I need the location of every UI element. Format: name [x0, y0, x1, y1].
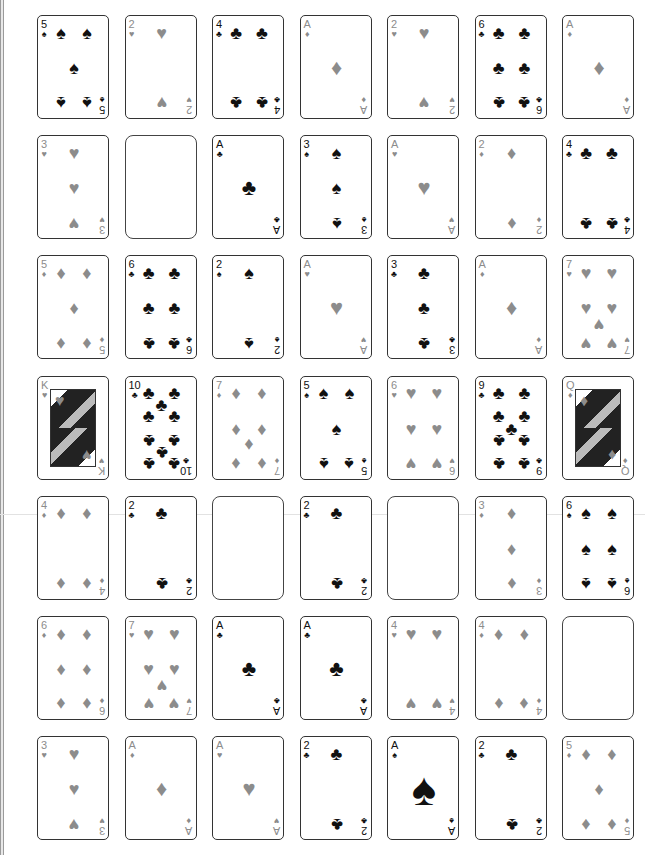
- card-a-of-hearts[interactable]: A♥A♥♥: [300, 255, 372, 359]
- diamonds-icon: ♦: [69, 299, 78, 317]
- card-a-of-hearts[interactable]: A♥A♥♥: [387, 135, 459, 239]
- card-corner-index: 5♠: [361, 456, 367, 476]
- card-7-of-hearts[interactable]: 7♥7♥♥♥♥♥♥♥♥: [562, 255, 634, 359]
- card-rank: 2: [186, 585, 192, 596]
- spades-icon: ♠: [100, 95, 105, 104]
- clubs-icon: ♣: [329, 658, 343, 680]
- card-a-of-diamonds[interactable]: A♦A♦♦: [475, 255, 547, 359]
- card-2-of-hearts[interactable]: 2♥2♥♥♥: [125, 15, 197, 119]
- card-2-of-clubs[interactable]: 2♣2♣♣♣: [300, 736, 372, 840]
- card-corner-index: 3♦: [536, 576, 542, 596]
- card-3-of-hearts[interactable]: 3♥3♥♥♥♥: [37, 736, 109, 840]
- hearts-icon: ♥: [187, 95, 192, 104]
- card-2-of-hearts[interactable]: 2♥2♥♥♥: [387, 15, 459, 119]
- card-rank: 5: [99, 104, 105, 115]
- hearts-icon: ♥: [169, 625, 180, 643]
- diamonds-icon: ♦: [507, 540, 516, 558]
- hearts-icon: ♥: [594, 316, 605, 334]
- card-corner-index: 4♣: [216, 19, 222, 39]
- card-4-of-clubs[interactable]: 4♣4♣♣♣♣♣: [562, 135, 634, 239]
- clubs-icon: ♣: [479, 391, 485, 400]
- card-a-of-clubs[interactable]: A♣A♣♣: [212, 616, 284, 720]
- card-rank: K: [41, 380, 48, 391]
- diamonds-icon: ♦: [231, 384, 240, 402]
- hearts-icon: ♥: [607, 264, 618, 282]
- card-corner-index: 3♥: [41, 139, 47, 159]
- card-rank: A: [185, 825, 192, 836]
- card-2-of-clubs[interactable]: 2♣2♣♣♣: [475, 736, 547, 840]
- hearts-icon: ♥: [99, 456, 104, 465]
- card-k-of-hearts[interactable]: K♥K♥♥♥: [37, 376, 109, 480]
- card-corner-index: 2♥: [186, 95, 192, 115]
- card-a-of-hearts[interactable]: A♥A♥♥: [212, 736, 284, 840]
- card-a-of-clubs[interactable]: A♣A♣♣: [300, 616, 372, 720]
- empty-card-slot[interactable]: [562, 616, 634, 720]
- card-2-of-spades[interactable]: 2♠2♠♠♠: [212, 255, 284, 359]
- hearts-icon: ♥: [361, 335, 366, 344]
- card-q-of-diamonds[interactable]: Q♦Q♦♦♦: [562, 376, 634, 480]
- card-a-of-diamonds[interactable]: A♦A♦♦: [562, 15, 634, 119]
- card-corner-index: 3♠: [361, 215, 367, 235]
- spades-icon: ♠: [304, 150, 309, 159]
- card-rank: A: [448, 224, 455, 235]
- card-corner-index: 4♣: [624, 215, 630, 235]
- empty-card-slot[interactable]: [125, 135, 197, 239]
- card-5-of-diamonds[interactable]: 5♦5♦♦♦♦♦♦: [37, 255, 109, 359]
- card-10-of-clubs[interactable]: 10♣10♣♣♣♣♣♣♣♣♣♣♣: [125, 376, 197, 480]
- clubs-icon: ♣: [624, 215, 630, 224]
- hearts-icon: ♥: [99, 816, 104, 825]
- diamonds-icon: ♦: [156, 778, 167, 800]
- card-6-of-clubs[interactable]: 6♣6♣♣♣♣♣♣♣: [125, 255, 197, 359]
- empty-card-slot[interactable]: [387, 496, 459, 600]
- card-4-of-diamonds[interactable]: 4♦4♦♦♦♦♦: [475, 616, 547, 720]
- card-a-of-spades[interactable]: A♠A♠♠: [387, 736, 459, 840]
- card-6-of-diamonds[interactable]: 6♦6♦♦♦♦♦♦♦: [37, 616, 109, 720]
- card-2-of-diamonds[interactable]: 2♦2♦♦♦: [475, 135, 547, 239]
- card-5-of-spades[interactable]: 5♠5♠♠♠♠♠♠: [37, 15, 109, 119]
- clubs-icon: ♣: [143, 455, 155, 473]
- hearts-icon: ♥: [217, 751, 222, 760]
- card-a-of-diamonds[interactable]: A♦A♦♦: [300, 15, 372, 119]
- card-3-of-diamonds[interactable]: 3♦3♦♦♦♦: [475, 496, 547, 600]
- card-7-of-diamonds[interactable]: 7♦7♦♦♦♦♦♦♦♦: [212, 376, 284, 480]
- card-9-of-clubs[interactable]: 9♣9♣♣♣♣♣♣♣♣♣♣: [475, 376, 547, 480]
- spades-icon: ♠: [345, 384, 355, 402]
- card-a-of-diamonds[interactable]: A♦A♦♦: [125, 736, 197, 840]
- card-4-of-diamonds[interactable]: 4♦4♦♦♦♦♦: [37, 496, 109, 600]
- card-corner-index: 9♣: [536, 456, 542, 476]
- card-4-of-hearts[interactable]: 4♥4♥♥♥♥♥: [387, 616, 459, 720]
- card-corner-index: 4♥: [449, 696, 455, 716]
- card-a-of-clubs[interactable]: A♣A♣♣: [212, 135, 284, 239]
- card-6-of-hearts[interactable]: 6♥6♥♥♥♥♥♥♥: [387, 376, 459, 480]
- diamonds-icon: ♦: [537, 576, 542, 585]
- diamonds-icon: ♦: [82, 504, 91, 522]
- clubs-icon: ♣: [304, 511, 310, 520]
- card-3-of-hearts[interactable]: 3♥3♥♥♥♥: [37, 135, 109, 239]
- card-6-of-spades[interactable]: 6♠6♠♠♠♠♠♠♠: [562, 496, 634, 600]
- card-5-of-spades[interactable]: 5♠5♠♠♠♠♠♠: [300, 376, 372, 480]
- card-rank: A: [448, 825, 455, 836]
- card-corner-index: 2♦: [536, 215, 542, 235]
- card-corner-index: 4♥: [391, 620, 397, 640]
- clubs-icon: ♣: [519, 407, 531, 425]
- card-5-of-diamonds[interactable]: 5♦5♦♦♦♦♦♦: [562, 736, 634, 840]
- card-corner-index: 5♦: [41, 259, 47, 279]
- card-3-of-spades[interactable]: 3♠3♠♠♠♠: [300, 135, 372, 239]
- diamonds-icon: ♦: [581, 745, 590, 763]
- card-7-of-hearts[interactable]: 7♥7♥♥♥♥♥♥♥♥: [125, 616, 197, 720]
- card-2-of-clubs[interactable]: 2♣2♣♣♣: [300, 496, 372, 600]
- card-6-of-clubs[interactable]: 6♣6♣♣♣♣♣♣♣: [475, 15, 547, 119]
- clubs-icon: ♣: [519, 24, 531, 42]
- diamonds-icon: ♦: [130, 751, 135, 760]
- card-rank: 2: [536, 224, 542, 235]
- card-4-of-clubs[interactable]: 4♣4♣♣♣♣♣: [212, 15, 284, 119]
- card-rank: 2: [361, 825, 367, 836]
- card-corner-index: A♦: [304, 19, 311, 39]
- card-rank: 2: [449, 104, 455, 115]
- card-3-of-clubs[interactable]: 3♣3♣♣♣♣: [387, 255, 459, 359]
- empty-card-slot[interactable]: [212, 496, 284, 600]
- card-2-of-clubs[interactable]: 2♣2♣♣♣: [125, 496, 197, 600]
- hearts-icon: ♥: [406, 455, 417, 473]
- card-corner-index: Q♦: [566, 380, 575, 400]
- card-rank: 2: [361, 585, 367, 596]
